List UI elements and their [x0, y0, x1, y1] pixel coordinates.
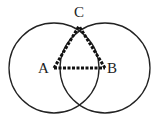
- segment-ac: [54, 26, 79, 68]
- point-label-a: A: [38, 60, 49, 76]
- segment-bc: [79, 26, 105, 68]
- point-label-b: B: [107, 60, 117, 76]
- equilateral-triangle-construction-diagram: A B C: [0, 0, 157, 122]
- point-label-c: C: [74, 4, 84, 20]
